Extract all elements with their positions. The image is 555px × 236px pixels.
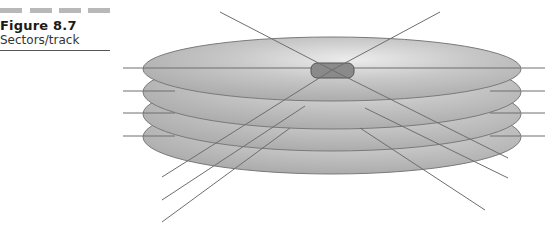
disk-platters-diagram [0,0,555,236]
